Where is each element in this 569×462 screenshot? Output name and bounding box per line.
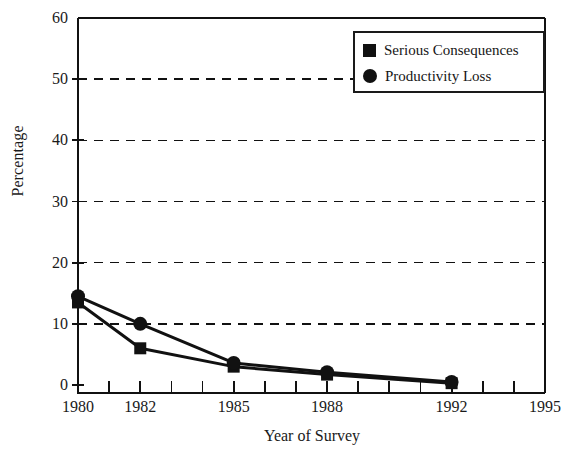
x-axis-tick-label: 1985 [204, 398, 264, 416]
circle-marker-icon [363, 69, 377, 83]
legend-item-productivity-loss: Productivity Loss [363, 63, 543, 89]
x-axis-ticks [78, 381, 545, 393]
y-axis-tick-label: 0 [22, 377, 68, 393]
legend-label: Productivity Loss [385, 69, 491, 84]
y-axis-title: Percentage [9, 101, 27, 221]
gridlines [78, 79, 545, 324]
legend: Serious Consequences Productivity Loss [353, 31, 545, 93]
legend-label: Serious Consequences [384, 43, 519, 58]
square-marker-icon [363, 44, 376, 57]
y-axis-tick-label: 60 [22, 10, 68, 26]
x-axis-tick-label: 1992 [422, 398, 482, 416]
x-axis-tick-label: 1982 [110, 398, 170, 416]
x-axis-tick-label: 1980 [48, 398, 108, 416]
x-axis-title: Year of Survey [78, 427, 546, 445]
y-axis-tick-label: 20 [22, 255, 68, 271]
legend-item-serious-consequences: Serious Consequences [363, 37, 543, 63]
y-axis-tick-label: 40 [22, 132, 68, 148]
series-lines [78, 296, 452, 383]
y-axis-tick-label: 30 [22, 194, 68, 210]
x-axis-tick-label: 1995 [515, 398, 569, 416]
line-chart: 0102030405060 198019821985198819921995 P… [0, 0, 569, 462]
y-axis-tick-label: 10 [22, 316, 68, 332]
x-axis-tick-label: 1988 [297, 398, 357, 416]
y-axis-tick-label: 50 [22, 71, 68, 87]
